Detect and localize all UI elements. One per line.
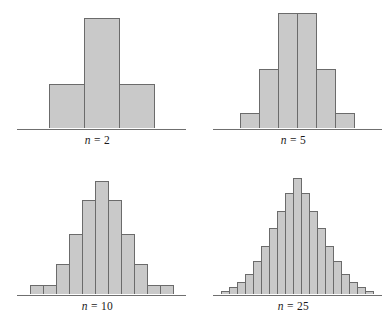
caption-equals-n25: = — [287, 300, 294, 312]
histogram-bar — [49, 84, 85, 128]
histogram-bar — [84, 18, 120, 128]
plot-area-n25 — [196, 166, 391, 298]
bar-group-n25 — [213, 168, 382, 294]
panel-caption-n2: n = 2 — [0, 134, 195, 146]
histogram-bar — [259, 69, 279, 128]
panel-caption-n10: n = 10 — [0, 300, 195, 312]
caption-value-n5: 5 — [300, 134, 306, 146]
histogram-bar — [134, 264, 148, 294]
baseline-axis-n2 — [17, 129, 186, 130]
panel-caption-n5: n = 5 — [196, 134, 391, 146]
histogram-bar — [278, 13, 298, 128]
caption-symbol-n2: n — [85, 134, 91, 146]
histogram-bar — [147, 285, 161, 294]
caption-symbol-n5: n — [281, 134, 287, 146]
caption-value-n10: 10 — [101, 300, 113, 312]
histogram-bar — [69, 234, 83, 294]
histogram-bar — [108, 200, 122, 295]
histogram-panel-n5: n = 5 — [196, 0, 391, 166]
histogram-bar — [95, 181, 109, 294]
baseline-axis-n5 — [213, 129, 382, 130]
histogram-bar — [335, 113, 355, 128]
histogram-bar — [56, 264, 70, 294]
histogram-bar — [365, 291, 374, 294]
histogram-bar — [82, 200, 96, 295]
caption-equals-n5: = — [290, 134, 297, 146]
bar-group-n5 — [213, 2, 382, 128]
histogram-bar — [30, 285, 44, 294]
caption-symbol-n10: n — [82, 300, 88, 312]
caption-value-n25: 25 — [297, 300, 309, 312]
histogram-bar — [119, 84, 155, 128]
bar-group-n10 — [17, 168, 186, 294]
histogram-bar — [316, 69, 336, 128]
baseline-axis-n10 — [17, 295, 186, 296]
panel-caption-n25: n = 25 — [196, 300, 391, 312]
plot-area-n2 — [0, 0, 195, 132]
histogram-panel-n10: n = 10 — [0, 166, 195, 332]
histogram-bar — [43, 285, 57, 294]
caption-value-n2: 2 — [104, 134, 110, 146]
histogram-bar — [240, 113, 260, 128]
histogram-bar — [297, 13, 317, 128]
histogram-panel-n25: n = 25 — [196, 166, 391, 332]
central-limit-theorem-figure: n = 2 n = 5 n = 10 n — [0, 0, 391, 332]
histogram-panel-n2: n = 2 — [0, 0, 195, 166]
histogram-bar — [160, 285, 174, 294]
caption-equals-n10: = — [91, 300, 98, 312]
caption-equals-n2: = — [94, 134, 101, 146]
histogram-bar — [121, 234, 135, 294]
bar-group-n2 — [17, 2, 186, 128]
plot-area-n5 — [196, 0, 391, 132]
baseline-axis-n25 — [213, 295, 382, 296]
plot-area-n10 — [0, 166, 195, 298]
caption-symbol-n25: n — [278, 300, 284, 312]
